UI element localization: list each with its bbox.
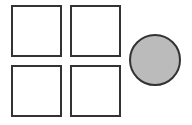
gray-circle: [129, 34, 181, 86]
square-bottom-right: [70, 65, 121, 117]
square-top-left: [11, 5, 62, 57]
square-bottom-left: [11, 65, 62, 117]
square-top-right: [70, 5, 121, 57]
